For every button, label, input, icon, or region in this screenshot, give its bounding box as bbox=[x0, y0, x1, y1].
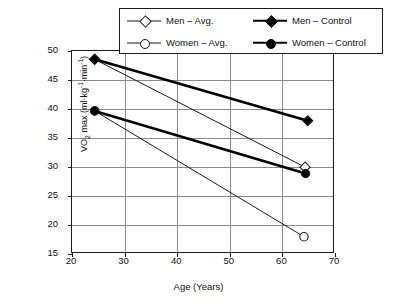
series-line bbox=[95, 111, 306, 174]
legend-label: Men – Avg. bbox=[166, 16, 213, 26]
legend-entry[interactable]: Women – Avg. bbox=[121, 32, 247, 54]
legend-marker-circle-filled-icon bbox=[266, 39, 276, 49]
series-women-control bbox=[90, 107, 309, 178]
data-point-marker bbox=[303, 116, 313, 126]
chart-legend: Men – Avg.Men – ControlWomen – Avg.Women… bbox=[119, 8, 383, 54]
legend-label: Men – Control bbox=[292, 16, 352, 26]
legend-swatch bbox=[127, 15, 161, 27]
legend-label: Women – Control bbox=[292, 38, 366, 48]
legend-marker-diamond-filled-icon bbox=[265, 15, 278, 28]
legend-entry[interactable]: Women – Control bbox=[247, 32, 383, 54]
legend-entry[interactable]: Men – Avg. bbox=[121, 10, 247, 32]
legend-entry[interactable]: Men – Control bbox=[247, 10, 383, 32]
chart-figure: 1520253035404550 203040506070 VO2 max (m… bbox=[0, 0, 397, 307]
legend-label: Women – Avg. bbox=[166, 38, 227, 48]
data-point-marker bbox=[90, 107, 98, 115]
legend-swatch bbox=[253, 15, 287, 27]
data-point-marker bbox=[301, 169, 309, 177]
legend-marker-circle-open-icon bbox=[140, 39, 150, 49]
series-men-control bbox=[90, 54, 313, 126]
series-women-avg bbox=[90, 107, 308, 241]
series-line bbox=[95, 59, 305, 167]
data-point-marker bbox=[300, 233, 308, 241]
legend-swatch bbox=[253, 37, 287, 49]
series-line bbox=[95, 111, 304, 237]
data-point-marker bbox=[90, 54, 100, 64]
legend-swatch bbox=[127, 37, 161, 49]
legend-marker-diamond-open-icon bbox=[139, 15, 152, 28]
series-line bbox=[95, 59, 308, 120]
